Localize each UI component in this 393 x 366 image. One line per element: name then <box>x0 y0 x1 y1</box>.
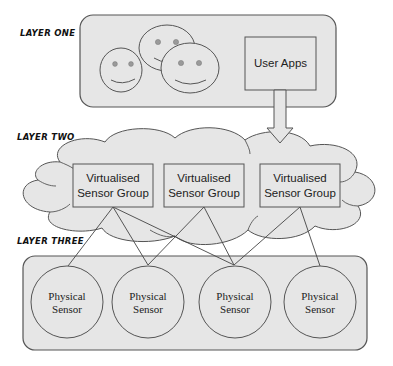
sensor-label-line1: Physical <box>129 290 166 302</box>
virtual-sensor-group-3: Virtualised Sensor Group <box>260 164 340 207</box>
sensor-label-line2: Sensor <box>305 303 335 315</box>
sensor-label-line2: Sensor <box>52 303 82 315</box>
physical-sensor-4: Physical Sensor <box>284 266 356 338</box>
sensor-label-line2: Sensor <box>220 303 250 315</box>
physical-sensor-2: Physical Sensor <box>112 266 184 338</box>
group-label-line2: Sensor Group <box>77 187 149 199</box>
sensor-label-line1: Physical <box>216 290 253 302</box>
layer-three-label: Layer Three <box>17 236 84 246</box>
smiley-face-icon <box>161 43 219 93</box>
group-label-line2: Sensor Group <box>264 187 336 199</box>
group-label-line1: Virtualised <box>86 172 140 184</box>
sensor-label-line1: Physical <box>48 290 85 302</box>
layer-two-label: Layer Two <box>17 132 75 142</box>
group-label-line2: Sensor Group <box>168 187 240 199</box>
sensor-label-line2: Sensor <box>133 303 163 315</box>
layer-one-label: Layer One <box>20 28 75 38</box>
user-apps-label: User Apps <box>254 57 307 69</box>
sensor-label-line1: Physical <box>301 290 338 302</box>
physical-sensor-3: Physical Sensor <box>199 266 271 338</box>
virtual-sensor-group-2: Virtualised Sensor Group <box>164 164 244 207</box>
architecture-diagram: Layer One Layer Two Layer Three User App… <box>0 0 393 366</box>
virtual-sensor-group-1: Virtualised Sensor Group <box>73 164 153 207</box>
group-label-line1: Virtualised <box>273 172 327 184</box>
physical-sensor-1: Physical Sensor <box>31 266 103 338</box>
group-label-line1: Virtualised <box>177 172 231 184</box>
smiley-face-icon <box>100 48 142 92</box>
